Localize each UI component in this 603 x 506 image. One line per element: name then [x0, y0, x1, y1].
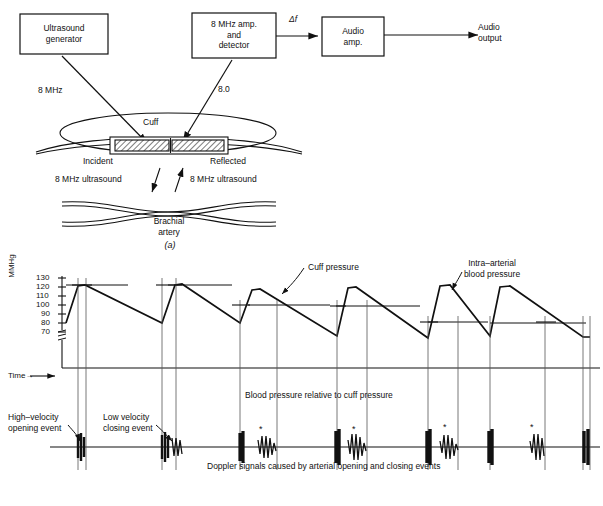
transducer-crystal-reflected — [172, 140, 224, 151]
doppler-burst-4-close — [348, 434, 366, 460]
label-reflected: Reflected — [210, 156, 246, 167]
pressure-chart-group: * * * * — [30, 268, 600, 470]
annotation-high-velocity-opening: High–velocity opening event — [8, 412, 61, 433]
label-incident: Incident — [83, 156, 113, 167]
box-label-ultrasound-generator: Ultrasound generator — [20, 23, 108, 44]
panel-a-label: (a) — [140, 240, 200, 251]
arterial-pressure-trace — [66, 284, 590, 338]
doppler-burst-1 — [78, 433, 84, 461]
arrow-generator-to-cuff — [62, 56, 147, 143]
annotation-intra-arterial: Intra–arterial blood pressure — [437, 258, 547, 279]
doppler-burst-3-close — [258, 436, 276, 458]
box-label-amp-detector: 8 MHz amp. and detector — [192, 19, 276, 51]
label-audio-output: Audio output — [478, 22, 502, 43]
doppler-burst-5-open — [427, 429, 430, 465]
cuff-pressure-steps — [66, 285, 586, 323]
leader-cuff-pressure — [282, 268, 304, 294]
asterisk-1: * — [259, 424, 263, 434]
annotation-low-velocity-closing: Low velocity closing event — [103, 412, 153, 433]
doppler-burst-5-close — [440, 435, 458, 459]
doppler-burst-4-open — [336, 429, 339, 465]
arrow-beam-up — [175, 168, 183, 192]
x-axis-label: Time→ — [8, 371, 33, 382]
doppler-burst-6-open — [489, 429, 492, 465]
figure-vector-layer: * * * * — [0, 0, 603, 506]
asterisk-3: * — [443, 422, 447, 432]
arrow-cuff-to-amp — [183, 60, 232, 141]
transducer-crystal-incident — [115, 140, 169, 151]
label-delta-f: Δf — [289, 14, 297, 25]
label-brachial-artery: Brachial artery — [125, 216, 213, 237]
figure-canvas: * * * * Ultrasound generator 8 MHz amp. … — [0, 0, 603, 506]
annotation-cuff-pressure: Cuff pressure — [308, 262, 359, 273]
cuff-anatomy-group — [36, 113, 302, 226]
asterisk-4: * — [530, 422, 534, 432]
arrow-beam-down — [152, 168, 160, 192]
asterisk-2: * — [352, 424, 356, 434]
box-label-audio-amp: Audio amp. — [322, 26, 384, 47]
doppler-burst-2-close — [172, 438, 182, 456]
label-reflected-beam: 8 MHz ultrasound — [190, 174, 257, 185]
label-incident-beam: 8 MHz ultrasound — [55, 174, 122, 185]
cuff-crossing-ticks — [72, 285, 556, 322]
artery-wall-upper-inner — [62, 206, 276, 216]
annotation-blood-pressure-relative: Blood pressure relative to cuff pressure — [245, 390, 393, 401]
y-axis-label: MMHg — [7, 244, 18, 288]
annotation-doppler-caption: Doppler signals caused by arterial openi… — [207, 461, 440, 472]
doppler-burst-2-open — [162, 432, 168, 462]
label-cuff: Cuff — [143, 117, 158, 128]
label-reflected-frequency: 8.0 — [218, 84, 232, 95]
pulse-waveform — [66, 284, 590, 338]
event-gridlines — [78, 278, 590, 470]
ytick-label-70: 70 — [41, 327, 50, 338]
doppler-burst-3-open — [240, 431, 243, 463]
label-incident-frequency: 8 MHz — [38, 85, 63, 96]
